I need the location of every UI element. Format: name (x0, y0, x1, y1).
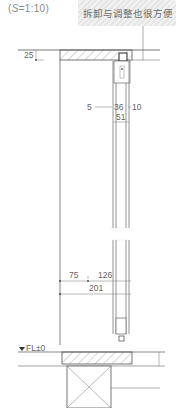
floor-slab (62, 352, 132, 364)
section-drawing: 25 5 36 10 51 75 126 201 FL±0 (0, 0, 188, 408)
dim-top-gap: 25 (24, 50, 34, 60)
dim-left-offset: 5 (87, 102, 92, 112)
dim-total-track: 51 (116, 112, 126, 122)
roller-icon (119, 53, 127, 61)
dim-overall: 201 (89, 283, 103, 293)
dim-right-offset: 10 (132, 102, 142, 112)
floor-guide-icon (119, 336, 124, 341)
dim-panel-span: 126 (98, 270, 112, 280)
level-triangle-icon (19, 347, 25, 351)
dim-wall-to-panel: 75 (69, 270, 79, 280)
dim-panel-width: 36 (114, 102, 124, 112)
level-label: FL±0 (26, 343, 46, 353)
